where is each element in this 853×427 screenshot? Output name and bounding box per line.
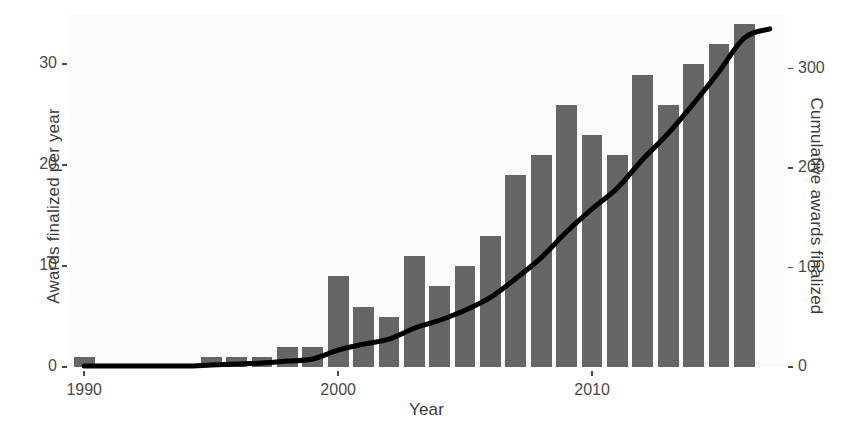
x-axis-tick-label: 2010 (574, 381, 610, 399)
y-axis-right-tick-mark (788, 366, 793, 368)
x-axis-tick-mark (591, 371, 593, 376)
cumulative-line-series (69, 14, 785, 367)
x-axis-tick-label: 1990 (66, 381, 102, 399)
y-axis-right-tick-mark (788, 267, 793, 269)
y-axis-right-tick-mark (788, 68, 793, 70)
chart-figure: Awards finalized per year Cumulative awa… (0, 0, 853, 427)
y-axis-right-tick-label: 100 (798, 258, 825, 276)
x-axis-tick-label: 2000 (320, 381, 356, 399)
y-axis-left-tick-mark (62, 63, 67, 65)
y-axis-right-tick-label: 300 (798, 59, 825, 77)
y-axis-left-title: Awards finalized per year (44, 56, 64, 356)
y-axis-left-tick-mark (62, 366, 67, 368)
y-axis-right-tick-mark (788, 167, 793, 169)
x-axis-title: Year (0, 400, 853, 420)
y-axis-right-tick-label: 200 (798, 158, 825, 176)
y-axis-left-tick-label: 30 (39, 54, 57, 72)
y-axis-right-title: Cumulative awards finalized (806, 56, 826, 356)
x-axis-tick-mark (337, 371, 339, 376)
y-axis-left-tick-label: 0 (48, 357, 57, 375)
plot-panel (69, 14, 785, 367)
y-axis-left-tick-label: 20 (39, 155, 57, 173)
y-axis-right-tick-label: 0 (798, 357, 807, 375)
cumulative-line-path (84, 29, 770, 366)
y-axis-left-tick-mark (62, 164, 67, 166)
y-axis-left-tick-label: 10 (39, 256, 57, 274)
x-axis-tick-mark (83, 371, 85, 376)
y-axis-left-tick-mark (62, 265, 67, 267)
